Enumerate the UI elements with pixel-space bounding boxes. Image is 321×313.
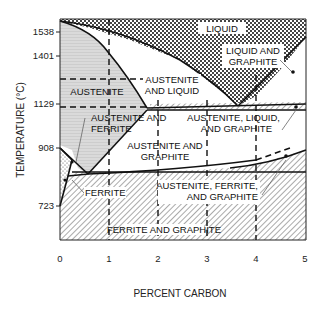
x-axis-title: PERCENT CARBON — [133, 288, 226, 299]
label-liquid-graphite-2: GRAPHITE — [229, 56, 278, 67]
y-tick-1129: 1129 — [34, 98, 54, 109]
y-tick-labels: 1538 1401 1129 908 723 — [33, 26, 54, 211]
label-aus-liq-graph-2: AND GRAPHITE — [201, 123, 272, 134]
label-austenite-ferrite-2: FERRITE — [91, 123, 132, 134]
x-tick-2: 2 — [155, 253, 160, 264]
label-aus-fer-graph-1: AUSTENITE, FERRITE, — [156, 180, 258, 191]
y-tick-1538: 1538 — [33, 26, 54, 37]
label-liquid: LIQUID — [206, 23, 238, 34]
label-aus-fer-graph-2: AND GRAPHITE — [187, 191, 258, 202]
label-austenite-liquid-2: AND LIQUID — [145, 85, 200, 96]
label-austenite: AUSTENITE — [70, 86, 123, 97]
x-tick-5: 5 — [302, 253, 307, 264]
x-tick-1: 1 — [106, 253, 111, 264]
label-austenite-liquid-1: AUSTENITE — [145, 74, 198, 85]
y-tick-1401: 1401 — [33, 50, 54, 61]
y-tick-908: 908 — [38, 142, 54, 153]
x-tick-labels: 0 1 2 3 4 5 — [57, 253, 307, 264]
label-austenite-ferrite-1: AUSTENITE AND — [91, 112, 167, 123]
phase-diagram: 1538 1401 1129 908 723 0 1 2 3 4 5 PERCE… — [0, 0, 321, 313]
label-aus-liq-graph-1: AUSTENITE, LIQUID, — [187, 112, 280, 123]
x-tick-4: 4 — [253, 253, 258, 264]
label-austenite-graphite-1: AUSTENITE AND — [127, 140, 203, 151]
label-austenite-graphite-2: GRAPHITE — [141, 151, 190, 162]
label-liquid-graphite-1: LIQUID AND — [226, 45, 280, 56]
y-axis-title: TEMPERATURE (°C) — [15, 82, 26, 177]
label-ferrite-graphite: FERRITE AND GRAPHITE — [107, 224, 221, 235]
label-ferrite: FERRITE — [85, 187, 126, 198]
y-tick-723: 723 — [38, 200, 54, 211]
x-tick-3: 3 — [204, 253, 209, 264]
region-austenite — [60, 21, 147, 174]
x-tick-0: 0 — [57, 253, 62, 264]
